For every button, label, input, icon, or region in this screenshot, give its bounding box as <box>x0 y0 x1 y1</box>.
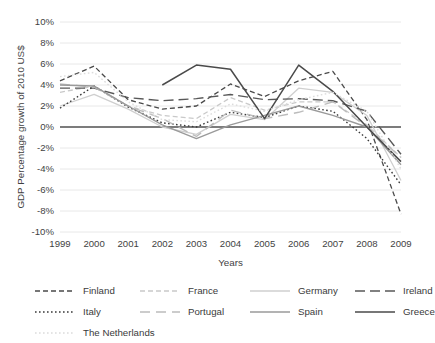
chart-legend: FinlandFranceGermanyIrelandItalyPortugal… <box>0 272 428 343</box>
legend-item-france[interactable]: France <box>139 286 249 296</box>
x-tick-label: 2007 <box>322 238 343 249</box>
legend-item-finland[interactable]: Finland <box>34 286 139 296</box>
legend-label: Spain <box>298 307 323 317</box>
legend-label: France <box>188 286 218 296</box>
x-tick-label: 2006 <box>288 238 309 249</box>
x-axis-title: Years <box>218 257 243 268</box>
legend-label: Finland <box>83 286 115 296</box>
x-tick-label: 2008 <box>356 238 377 249</box>
legend-swatch-icon <box>354 307 396 317</box>
legend-row: ItalyPortugalSpainGreece <box>34 301 418 322</box>
y-tick-label: -6% <box>37 184 55 195</box>
x-tick-label: 1999 <box>49 238 70 249</box>
y-tick-label: -10% <box>32 226 55 237</box>
legend-item-germany[interactable]: Germany <box>249 286 354 296</box>
legend-item-ireland[interactable]: Ireland <box>354 286 418 296</box>
legend-item-italy[interactable]: Italy <box>34 307 139 317</box>
y-tick-label: -8% <box>37 205 55 216</box>
legend-swatch-icon <box>139 286 181 296</box>
legend-item-spain[interactable]: Spain <box>249 307 354 317</box>
y-axis-title: GDP Percentage growth of 2010 US$ <box>15 45 26 209</box>
y-tick-label: 2% <box>40 100 54 111</box>
legend-row: FinlandFranceGermanyIreland <box>34 280 418 301</box>
y-tick-label: -4% <box>37 163 55 174</box>
legend-swatch-icon <box>34 286 76 296</box>
x-tick-label: 2000 <box>83 238 104 249</box>
legend-swatch-icon <box>139 307 181 317</box>
legend-row: The Netherlands <box>34 322 418 343</box>
chart-plot-area: 10%8%6%4%2%0%-2%-4%-6%-8%-10%19992000200… <box>0 0 428 272</box>
legend-item-the-netherlands[interactable]: The Netherlands <box>34 328 139 338</box>
legend-swatch-icon <box>249 307 291 317</box>
legend-item-portugal[interactable]: Portugal <box>139 307 249 317</box>
series-line-greece <box>162 65 401 162</box>
legend-label: The Netherlands <box>83 328 155 338</box>
y-tick-label: -2% <box>37 142 55 153</box>
series-line-finland <box>60 66 401 214</box>
y-tick-label: 10% <box>35 16 55 27</box>
series-line-germany <box>60 88 401 180</box>
y-tick-label: 4% <box>40 79 54 90</box>
x-tick-label: 2005 <box>254 238 275 249</box>
legend-label: Ireland <box>403 286 433 296</box>
x-tick-label: 2004 <box>220 238 242 249</box>
legend-item-greece[interactable]: Greece <box>354 307 418 317</box>
legend-label: Germany <box>298 286 338 296</box>
y-tick-label: 8% <box>40 37 54 48</box>
series-line-italy <box>60 86 401 185</box>
legend-swatch-icon <box>34 307 76 317</box>
x-tick-label: 2009 <box>390 238 411 249</box>
x-tick-label: 2002 <box>152 238 173 249</box>
legend-swatch-icon <box>354 286 396 296</box>
y-tick-label: 0% <box>40 121 54 132</box>
y-tick-label: 6% <box>40 58 54 69</box>
x-tick-label: 2003 <box>186 238 207 249</box>
chart-canvas: 10%8%6%4%2%0%-2%-4%-6%-8%-10%19992000200… <box>0 0 428 272</box>
legend-table: FinlandFranceGermanyIrelandItalyPortugal… <box>34 280 418 343</box>
legend-label: Portugal <box>188 307 224 317</box>
legend-swatch-icon <box>34 328 76 338</box>
legend-label: Italy <box>83 307 101 317</box>
legend-swatch-icon <box>249 286 291 296</box>
legend-label: Greece <box>403 307 435 317</box>
x-tick-label: 2001 <box>118 238 139 249</box>
